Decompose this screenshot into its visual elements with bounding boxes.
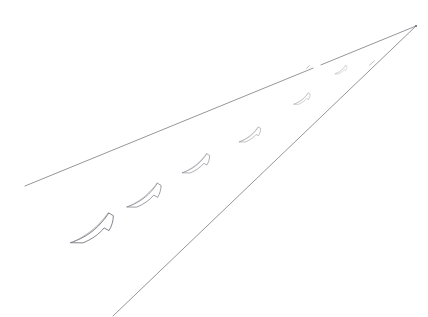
vanishing-point-marker xyxy=(415,25,417,27)
perspective-sketch xyxy=(0,0,428,317)
drawing-canvas xyxy=(0,0,428,317)
